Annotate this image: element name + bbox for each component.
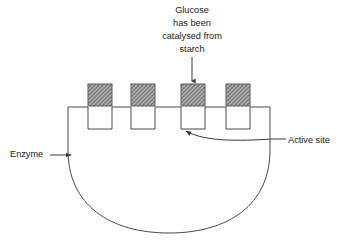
active-site-label: Active site [288,135,330,145]
enzyme-label: Enzyme [10,149,43,159]
active-site-label-group: Active site [186,131,330,145]
glucose-label-line-2: has been [173,18,211,28]
glucose-label-line-3: catalysed from [162,31,222,41]
substrate-block-2 [131,84,155,106]
glucose-label-line-4: starch [179,44,204,54]
substrate-block-3 [181,84,205,106]
substrate-block-4 [226,84,250,106]
substrate-block-1 [88,84,112,106]
diagram-canvas: Glucose has been catalysed from starch E… [0,0,343,252]
glucose-label: Glucose has been catalysed from starch [162,5,222,54]
enzyme-label-group: Enzyme [10,149,71,159]
glucose-label-line-1: Glucose [175,5,209,15]
enzyme-diagram: Glucose has been catalysed from starch E… [0,0,343,252]
active-site-leader-line [186,131,286,140]
enzyme-body-outline [68,107,270,233]
